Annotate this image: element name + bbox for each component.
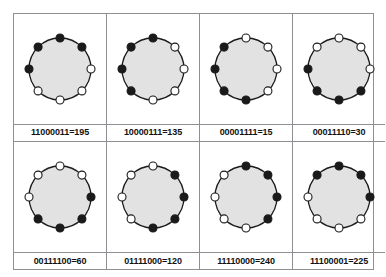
code-wheel-cell: 00011110=30 [293,14,385,142]
bit-dot-one [149,34,157,42]
code-wheel-cell: 00001111=15 [200,14,293,142]
code-wheel-label: 01111000=120 [124,257,182,266]
bit-dot-zero [118,193,126,201]
bit-dot-one [211,65,219,73]
code-wheel-label: 00001111=15 [220,128,273,137]
code-wheel-label-bar: 11100001=225 [293,252,385,269]
bit-dot-one [171,171,179,179]
bit-dot-zero [127,215,135,223]
code-wheel-diagram [293,14,385,124]
bit-dot-zero [149,96,157,104]
bit-dot-one [313,171,321,179]
bit-dot-one [304,65,312,73]
bit-dot-one [56,34,64,42]
bit-dot-zero [242,34,250,42]
bit-dot-one [220,87,228,95]
code-wheel-cell: 11110000=240 [200,142,293,270]
code-wheel-svg [14,151,106,243]
bit-dot-one [242,96,250,104]
bit-dot-one [25,65,33,73]
bit-dot-zero [335,224,343,232]
bit-dot-one [127,87,135,95]
code-wheel-label: 00111100=60 [34,257,87,266]
code-wheel-label: 11110000=240 [217,257,275,266]
bit-dot-one [171,215,179,223]
bit-dot-zero [357,43,365,51]
bit-dot-one [149,224,157,232]
code-wheel-svg [107,151,199,243]
bit-dot-one [220,43,228,51]
bit-dot-zero [180,65,188,73]
bit-dot-zero [78,171,86,179]
bit-dot-one [180,193,188,201]
code-wheel-svg [107,23,199,115]
bit-dot-one [264,215,272,223]
bit-dot-one [313,87,321,95]
bit-dot-one [357,87,365,95]
code-wheel-svg [293,151,385,243]
bit-dot-zero [25,193,33,201]
bit-dot-one [78,215,86,223]
bit-dot-zero [149,162,157,170]
bit-dot-zero [171,43,179,51]
code-wheel-label-bar: 00111100=60 [14,252,106,269]
code-wheel-label: 11100001=225 [310,257,368,266]
code-wheel-diagram [14,14,106,124]
bit-dot-one [242,162,250,170]
code-wheel-diagram [107,142,199,253]
code-wheel-cell: 01111000=120 [107,142,200,270]
code-wheel-diagram [293,142,385,253]
code-wheel-diagram [200,142,292,253]
code-wheel-cell: 00111100=60 [14,142,107,270]
bit-dot-zero [78,87,86,95]
bit-dot-one [127,43,135,51]
code-wheel-cell: 11000011=195 [14,14,107,142]
bit-dot-zero [34,87,42,95]
code-wheel-diagram [200,14,292,124]
bit-dot-one [273,193,281,201]
bit-dot-zero [211,193,219,201]
bit-dot-zero [87,65,95,73]
code-wheel-label: 00011110=30 [313,128,366,137]
bit-dot-one [34,215,42,223]
bit-dot-zero [220,215,228,223]
bit-dot-zero [56,96,64,104]
bit-dot-one [34,43,42,51]
code-wheel-svg [200,151,292,243]
figure-container: 11000011=19510000111=13500001111=1500011… [13,13,374,270]
code-wheel-grid: 11000011=19510000111=13500001111=1500011… [13,13,374,270]
code-wheel-label-bar: 11000011=195 [14,124,106,141]
code-wheel-svg [293,23,385,115]
bit-dot-zero [335,34,343,42]
code-wheel-svg [14,23,106,115]
bit-dot-one [335,96,343,104]
bit-dot-zero [264,43,272,51]
bit-dot-one [357,171,365,179]
code-wheel-label-bar: 00001111=15 [200,124,292,141]
code-wheel-cell: 11100001=225 [293,142,385,270]
bit-dot-one [366,193,374,201]
code-wheel-cell: 10000111=135 [107,14,200,142]
bit-dot-zero [242,224,250,232]
bit-dot-zero [304,193,312,201]
bit-dot-one [78,43,86,51]
code-wheel-label-bar: 10000111=135 [107,124,199,141]
code-wheel-label: 11000011=195 [31,128,89,137]
bit-dot-zero [357,215,365,223]
bit-dot-zero [273,65,281,73]
bit-dot-one [264,171,272,179]
bit-dot-one [118,65,126,73]
bit-dot-zero [220,171,228,179]
bit-dot-one [335,162,343,170]
bit-dot-zero [313,215,321,223]
code-wheel-label-bar: 11110000=240 [200,252,292,269]
code-wheel-label-bar: 01111000=120 [107,252,199,269]
bit-dot-zero [34,171,42,179]
bit-dot-zero [171,87,179,95]
code-wheel-diagram [107,14,199,124]
bit-dot-zero [366,65,374,73]
bit-dot-one [87,193,95,201]
code-wheel-label: 10000111=135 [124,128,182,137]
code-wheel-label-bar: 00011110=30 [293,124,385,141]
bit-dot-zero [264,87,272,95]
